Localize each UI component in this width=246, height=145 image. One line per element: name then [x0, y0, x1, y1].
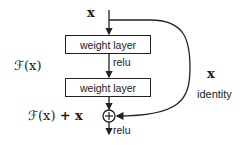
relu-label-1: relu [113, 56, 131, 68]
sum-label-plus: + x [60, 108, 83, 123]
weight-layer-2-label: weight layer [80, 82, 136, 94]
weight-layer-2: weight layer [65, 78, 151, 97]
sum-label: ℱ(x) + x [28, 108, 83, 123]
weight-layer-1-label: weight layer [80, 39, 136, 51]
weight-layer-1: weight layer [65, 35, 151, 54]
relu-label-2: relu [113, 124, 131, 136]
sum-label-f: ℱ(x) [28, 108, 55, 123]
residual-function-label: ℱ(x) [14, 58, 41, 73]
shortcut-x-label: x [207, 66, 215, 81]
input-x-label: x [87, 5, 95, 20]
identity-label: identity [197, 88, 232, 100]
